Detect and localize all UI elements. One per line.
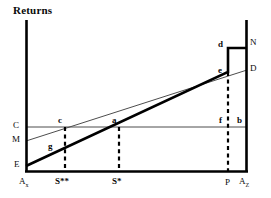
bold-schedule-line — [26, 48, 247, 166]
axis-label-Az-sub: Z — [246, 182, 250, 188]
thin-schedule-line — [26, 70, 247, 141]
axis-label-s-star: S* — [112, 177, 122, 186]
diagram-plot — [0, 0, 271, 198]
point-label-f: f — [219, 116, 222, 125]
axis-label-D: D — [250, 64, 257, 73]
axis-label-P: P — [225, 178, 230, 187]
point-label-e: e — [218, 66, 222, 75]
point-label-d: d — [218, 40, 223, 49]
axis-label-M: M — [12, 135, 20, 144]
axis-label-Ax: Ax — [19, 177, 29, 188]
point-label-b: b — [237, 116, 242, 125]
point-label-g: g — [48, 142, 53, 151]
axis-label-s-double-star: S** — [55, 177, 69, 186]
axis-label-Az: AZ — [239, 177, 249, 188]
axis-label-N: N — [250, 38, 257, 47]
axis-label-Ax-sub: x — [26, 182, 29, 188]
point-label-c: c — [58, 116, 62, 125]
point-label-a: a — [112, 116, 117, 125]
y-axis-title: Returns — [13, 5, 52, 16]
axis-label-C: C — [13, 121, 19, 130]
diagram-canvas: Returns C M E N D d e c a f b g Ax S** S… — [0, 0, 271, 198]
axis-label-E: E — [14, 160, 20, 169]
